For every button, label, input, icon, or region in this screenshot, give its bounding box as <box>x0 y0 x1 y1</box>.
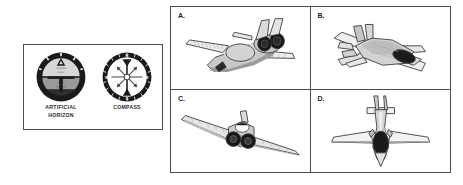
aircraft-grid: A. <box>170 6 451 173</box>
aircraft-cell-b-label: B. <box>318 12 325 19</box>
jet-aircraft-top-view-icon <box>311 90 451 173</box>
jet-aircraft-rear-view-icon <box>171 90 310 173</box>
svg-text:W: W <box>105 75 109 80</box>
svg-text:N: N <box>126 53 129 58</box>
compass-label: COMPASS <box>96 104 158 112</box>
svg-text:S: S <box>126 96 129 101</box>
aircraft-cell-d[interactable]: D. <box>311 90 451 173</box>
aircraft-cell-b[interactable]: B. <box>311 7 451 90</box>
aircraft-cell-a-label: A. <box>178 12 185 19</box>
instrument-panel: ARTIFICIAL HORIZON <box>23 44 163 130</box>
figure-root: ARTIFICIAL HORIZON <box>0 0 463 185</box>
instrument-compass: N E S W <box>96 51 158 125</box>
aircraft-cell-d-label: D. <box>318 95 325 102</box>
jet-aircraft-rear-three-quarter-icon <box>171 7 310 89</box>
instrument-artificial-horizon: ARTIFICIAL HORIZON <box>30 51 92 125</box>
artificial-horizon-label: ARTIFICIAL HORIZON <box>30 104 92 119</box>
compass-icon: N E S W <box>101 51 153 103</box>
aircraft-cell-c[interactable]: C. <box>171 90 311 173</box>
aircraft-cell-a[interactable]: A. <box>171 7 311 90</box>
stealth-fighter-top-rear-icon <box>311 7 451 89</box>
artificial-horizon-icon <box>35 51 87 103</box>
svg-text:E: E <box>146 75 149 80</box>
aircraft-cell-c-label: C. <box>178 95 185 102</box>
